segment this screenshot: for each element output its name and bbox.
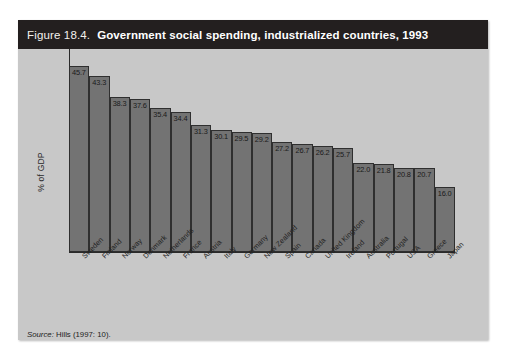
bar-value-label: 20.7 (417, 170, 431, 179)
bar-value-label: 16.0 (438, 189, 452, 198)
figure-title: Government social spending, industrializ… (97, 29, 428, 41)
bar: 43.3 (89, 76, 109, 252)
figure-number: Figure 18.4. (27, 29, 90, 41)
source-text: Hills (1997: 10). (54, 330, 111, 339)
bar-value-label: 27.2 (275, 144, 289, 153)
bar-value-label: 35.4 (153, 110, 167, 119)
y-axis-label: % of GDP (36, 127, 46, 217)
bar: 20.7 (414, 168, 434, 252)
bar: 45.7 (69, 66, 89, 252)
bar-value-label: 29.2 (255, 135, 269, 144)
bar-value-label: 20.8 (397, 170, 411, 179)
bars-layer: 45.743.338.337.635.434.431.330.129.529.2… (69, 49, 455, 252)
bar-value-label: 26.2 (316, 148, 330, 157)
bar: 38.3 (110, 97, 130, 252)
bar-value-label: 43.3 (92, 78, 106, 87)
category-labels-layer: SwedenFinlandNorwayDenmarkNetherlandsFra… (69, 254, 455, 324)
bar: 30.1 (211, 130, 231, 252)
bar-value-label: 22.0 (356, 165, 370, 174)
bar-value-label: 21.8 (377, 166, 391, 175)
bar-value-label: 30.1 (214, 132, 228, 141)
bar: 22.0 (353, 163, 373, 252)
bar-value-label: 31.3 (194, 127, 208, 136)
figure-root: Figure 18.4. Government social spending,… (0, 0, 508, 360)
figure-panel: Figure 18.4. Government social spending,… (18, 20, 488, 340)
bar-value-label: 37.6 (133, 101, 147, 110)
bar-value-label: 34.4 (174, 114, 188, 123)
source-label: Source: (27, 330, 54, 339)
bar-value-label: 29.5 (235, 134, 249, 143)
source-note: Source: Hills (1997: 10). (27, 330, 111, 339)
bar: 35.4 (150, 108, 170, 252)
bar: 29.5 (232, 132, 252, 252)
bar: 26.2 (313, 146, 333, 252)
plot-region: % of GDP 45.743.338.337.635.434.431.330.… (18, 49, 488, 340)
figure-header-bar: Figure 18.4. Government social spending,… (18, 20, 488, 49)
figure-header-text: Figure 18.4. Government social spending,… (27, 20, 428, 49)
bar-value-label: 45.7 (72, 68, 86, 77)
bar-value-label: 26.7 (295, 146, 309, 155)
bar: 26.7 (292, 144, 312, 252)
bar-value-label: 25.7 (336, 150, 350, 159)
bar: 37.6 (130, 99, 150, 252)
bar-value-label: 38.3 (113, 99, 127, 108)
